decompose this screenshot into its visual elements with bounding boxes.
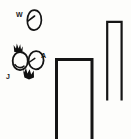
oval-with-slash-group <box>27 10 41 30</box>
label-j: J <box>6 73 10 80</box>
label-w: W <box>16 11 23 18</box>
oval-left-group <box>13 52 28 70</box>
oval-right-inner-mark <box>30 58 35 62</box>
narrow-inverted-u-bracket <box>107 22 121 101</box>
sketch-drawing <box>0 0 131 139</box>
oval-slash-line <box>28 16 35 21</box>
wide-inverted-u-bracket <box>57 60 93 140</box>
sketch-canvas: W A J <box>0 0 131 139</box>
zigzag-spark-top-icon <box>14 43 23 52</box>
label-a: A <box>41 52 46 59</box>
oval-left-inner-mark <box>15 65 24 68</box>
